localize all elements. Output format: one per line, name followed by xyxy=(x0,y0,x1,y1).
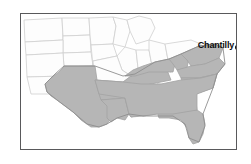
state-michigan xyxy=(127,16,155,44)
state-minnesota xyxy=(89,17,116,45)
city-marker-chantilly[interactable] xyxy=(235,45,237,50)
map-frame: Chantilly xyxy=(20,13,237,150)
city-label-chantilly: Chantilly xyxy=(176,40,234,51)
state-wyoming xyxy=(25,40,63,55)
state-florida xyxy=(157,110,205,144)
us-map-graphic xyxy=(21,14,236,149)
state-south-dakota xyxy=(63,35,91,53)
map-figure: Chantilly xyxy=(0,0,251,164)
state-north-dakota xyxy=(62,18,90,36)
state-montana xyxy=(24,18,63,42)
state-nebraska xyxy=(63,52,93,67)
